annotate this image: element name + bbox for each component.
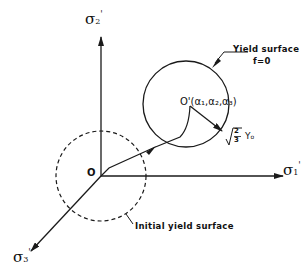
yield-surface-label-line2: f=0 [253,57,271,66]
sigma3-label: σ3' [13,250,31,265]
sigma3-axis [31,176,101,251]
radius-numerator: 2 [234,128,239,135]
origin-label: O [87,168,96,178]
sigma2-symbol: σ [85,10,95,28]
sigma1-prime: ' [298,160,300,170]
radius-variable: Yo [245,132,254,141]
yield-surface-label-line1: Yield surface [233,45,299,54]
radius-variable-sub: o [251,133,255,140]
initial-surface-label: Initial yield surface [135,222,234,231]
radius-denominator: 3 [234,137,239,144]
radius-arrow [190,106,222,131]
diagram-canvas [0,0,307,277]
center-label: O'(α₁,α₂,α₃) [180,97,237,107]
sigma3-prime: ' [28,247,30,257]
yield-surface-leader-tip [212,58,221,68]
initial-surface-leader [126,214,133,224]
sigma2-label: σ2' [85,12,103,27]
sigma1-label: σ1' [283,163,301,178]
sigma3-symbol: σ [13,248,23,266]
sigma2-prime: ' [100,9,102,19]
sigma1-symbol: σ [283,161,293,179]
